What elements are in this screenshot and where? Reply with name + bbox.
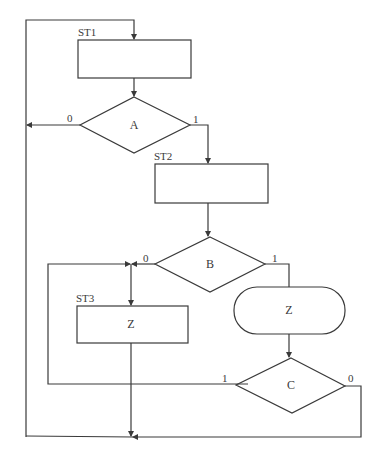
a-true-connector xyxy=(190,125,208,163)
decision-label-b: B xyxy=(206,258,214,270)
c-true-label: 1 xyxy=(222,373,228,384)
a-false-label: 0 xyxy=(67,113,73,124)
c-false-label: 0 xyxy=(348,373,354,384)
decision-label-c: C xyxy=(287,379,295,391)
c-true-loop-connector xyxy=(48,264,248,384)
state-label-st2: ST2 xyxy=(154,151,172,162)
state-box-st2 xyxy=(155,164,268,203)
flowchart-canvas xyxy=(0,0,379,461)
state-box-st1 xyxy=(78,40,191,78)
b-true-label: 1 xyxy=(272,253,278,264)
a-true-label: 1 xyxy=(193,114,199,125)
state-label-st3: ST3 xyxy=(76,293,94,304)
conditional-output-label-z: Z xyxy=(285,304,292,316)
bottom-loop-connector xyxy=(26,436,133,437)
state-label-st1: ST1 xyxy=(78,27,96,38)
b-false-label: 0 xyxy=(143,253,149,264)
decision-label-a: A xyxy=(130,119,139,131)
b-true-connector xyxy=(265,264,289,287)
st3-output-z: Z xyxy=(127,318,134,330)
loop-top-connector xyxy=(26,20,134,437)
c-false-connector xyxy=(133,386,361,437)
